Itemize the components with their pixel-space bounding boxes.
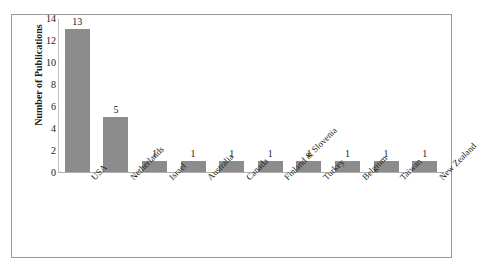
bar[interactable] — [103, 117, 128, 172]
y-axis-tick: 10 — [34, 58, 56, 68]
y-axis-tick: 0 — [34, 168, 56, 178]
y-axis-tick: 14 — [34, 14, 56, 24]
bar-group[interactable]: 1 — [219, 18, 244, 172]
y-axis-tick: 2 — [34, 146, 56, 156]
y-axis-tick: 4 — [34, 124, 56, 134]
bar-group[interactable]: 1 — [412, 18, 437, 172]
plot-area: 13511111111 — [58, 19, 444, 173]
bar-value-label: 1 — [181, 148, 206, 160]
bar-value-label: 5 — [103, 104, 128, 116]
x-axis-category-labels: USANetherlandsIsraelAustraliaCanadaFinla… — [58, 175, 444, 255]
bar-value-label: 13 — [65, 16, 90, 28]
chart-figure: Number of Publications 14121086420 13511… — [11, 14, 452, 258]
y-axis-tick: 6 — [34, 102, 56, 112]
bar-group[interactable]: 1 — [181, 18, 206, 172]
bar-group[interactable]: 13 — [65, 18, 90, 172]
y-axis-line — [58, 19, 59, 173]
y-axis-tick-labels: 14121086420 — [34, 15, 56, 173]
bar-group[interactable]: 1 — [258, 18, 283, 172]
bar-group[interactable]: 1 — [374, 18, 399, 172]
bar[interactable] — [65, 29, 90, 172]
bar-group[interactable]: 1 — [335, 18, 360, 172]
y-axis-tick: 12 — [34, 36, 56, 46]
y-axis-tick: 8 — [34, 80, 56, 90]
bar-group[interactable]: 5 — [103, 18, 128, 172]
